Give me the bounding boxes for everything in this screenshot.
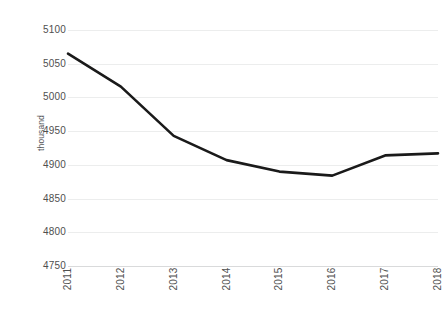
series-polyline [68,54,438,176]
y-tick-label: 5000 [22,92,66,102]
x-tick-label: 2011 [61,261,75,297]
x-tick-label: 2012 [114,261,128,297]
y-tick-label: 4750 [22,261,66,271]
y-tick-label: 5050 [22,59,66,69]
series-line [68,30,438,266]
y-tick-label: 5100 [22,25,66,35]
line-chart: thousand 5100 5050 5000 4950 4900 4850 4… [0,0,445,312]
plot-area [68,30,438,266]
x-tick-label: 2017 [378,261,392,297]
y-tick-label: 4800 [22,227,66,237]
y-tick-label: 4950 [22,126,66,136]
x-tick-label: 2018 [431,261,445,297]
y-axis-tick-labels: 5100 5050 5000 4950 4900 4850 4800 4750 [22,0,66,312]
x-tick-label: 2015 [272,261,286,297]
x-tick-label: 2016 [325,261,339,297]
x-tick-label: 2013 [167,261,181,297]
x-axis-tick-labels: 2011 2012 2013 2014 2015 2016 2017 2018 [68,266,438,312]
y-tick-label: 4850 [22,194,66,204]
x-tick-label: 2014 [220,261,234,297]
y-tick-label: 4900 [22,160,66,170]
